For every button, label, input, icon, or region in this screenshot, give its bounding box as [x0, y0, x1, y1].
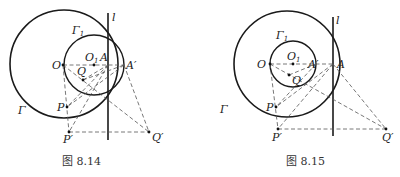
caption-8-15: 图 8.15	[286, 155, 325, 168]
label-l: l	[336, 14, 340, 27]
label-Q: Q	[292, 74, 301, 87]
label-gamma1: Γ1	[71, 24, 84, 38]
figure-8-14: l Γ1 Γ O O1 A A′ Q P P′ Q′ 图 8.14	[10, 10, 164, 168]
label-Aprime: A′	[125, 59, 137, 72]
dash-A-Qprime	[333, 64, 386, 129]
figures-canvas: l Γ1 Γ O O1 A A′ Q P P′ Q′ 图 8.14	[0, 0, 400, 177]
label-gamma: Γ	[219, 103, 228, 116]
dash-A-Pprime	[278, 64, 333, 129]
label-O1: O1	[85, 51, 99, 65]
point-O	[269, 63, 272, 66]
dash-O-Qprime	[270, 64, 386, 129]
label-A: A	[336, 58, 345, 71]
figure-8-15: l Γ1 Γ O O1 A′ A Q P P′ Q′ 图 8.15	[219, 11, 394, 168]
label-O1: O1	[287, 50, 301, 64]
label-O: O	[257, 58, 266, 71]
label-Aprime: A′	[307, 58, 319, 71]
label-l: l	[112, 11, 116, 24]
label-Pprime: P′	[62, 133, 73, 146]
point-Q	[82, 79, 85, 82]
label-Q: Q	[77, 65, 86, 78]
label-Pprime: P′	[271, 131, 282, 144]
point-P	[66, 106, 69, 109]
point-Qprime	[148, 131, 151, 134]
label-gamma: Γ	[17, 104, 26, 117]
dash-O-Pprime	[270, 64, 278, 129]
point-O	[62, 64, 65, 67]
label-gamma1: Γ1	[275, 29, 288, 43]
point-Q	[288, 74, 291, 77]
point-O1	[292, 63, 295, 66]
point-P	[275, 106, 278, 109]
point-Pprime	[277, 128, 280, 131]
point-Qprime	[385, 128, 388, 131]
label-Qprime: Q′	[152, 131, 164, 144]
label-Qprime: Q′	[382, 131, 394, 144]
label-A: A	[99, 51, 108, 64]
label-O: O	[52, 59, 61, 72]
label-P: P	[56, 101, 65, 114]
label-P: P	[265, 101, 274, 114]
caption-8-14: 图 8.14	[62, 155, 101, 168]
